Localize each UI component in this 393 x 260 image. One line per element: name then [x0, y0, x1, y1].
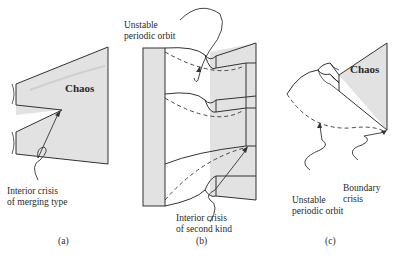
panel-c-caption: (c) — [325, 236, 336, 246]
panel-b-top-annotation-line1: Unstable — [124, 20, 158, 31]
panel-b-caption: (b) — [196, 236, 207, 246]
panel-c-chaos-label: Chaos — [350, 63, 379, 75]
panel-a-caption: (a) — [58, 236, 69, 246]
panel-c-left-annotation-line1: Unstable — [292, 195, 326, 206]
panel-a-annotation-line1: Interior crisis — [7, 186, 58, 197]
panel-c-right-annotation-line2: crisis — [343, 194, 363, 205]
panel-c-left-annotation-line2: periodic orbit — [292, 206, 343, 217]
panel-b-top-annotation-line2: periodic orbit — [124, 31, 175, 42]
panel-a-chaos-label: Chaos — [65, 82, 94, 94]
panel-c-right-annotation-line1: Boundary — [343, 183, 380, 194]
panel-a-drawing — [12, 47, 108, 180]
panel-a-annotation-line2: of merging type — [7, 197, 68, 208]
panel-b-bottom-annotation-line1: Interior crisis — [176, 213, 227, 224]
panel-b-bottom-annotation-line2: of second kind — [176, 224, 232, 235]
